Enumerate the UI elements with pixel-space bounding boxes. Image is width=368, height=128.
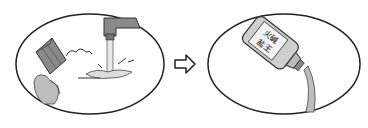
- diagram-canvas: 火碱 盐王: [0, 0, 368, 128]
- arrow-right-icon: [175, 55, 195, 73]
- faucet-panel: [16, 14, 164, 114]
- bottle-panel: 火碱 盐王: [208, 14, 360, 114]
